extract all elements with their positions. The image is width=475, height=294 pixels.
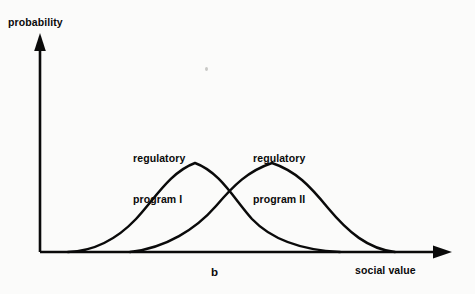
curve-label-program-2: regulatory program II: [253, 124, 305, 235]
x-axis-label: social value: [355, 264, 416, 278]
curve-label-program-1: regulatory program I: [133, 124, 185, 235]
panel-caption: b: [211, 265, 218, 280]
scan-speckle: [205, 67, 208, 71]
x-axis-arrowhead: [433, 246, 452, 259]
curve-label-program-2-line2: program II: [253, 193, 305, 207]
chart-canvas: [0, 0, 475, 294]
figure-panel: probability social value regulatory prog…: [0, 0, 475, 294]
curve-label-program-1-line2: program I: [133, 193, 185, 207]
curve-label-program-2-line1: regulatory: [253, 152, 305, 166]
curve-label-program-1-line1: regulatory: [133, 152, 185, 166]
y-axis-arrowhead: [34, 33, 46, 51]
y-axis-label: probability: [8, 16, 63, 30]
